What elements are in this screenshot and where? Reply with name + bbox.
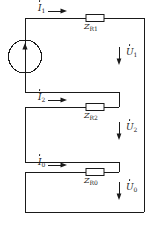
impedance-label-zr0: ZR0 — [84, 177, 98, 185]
resistor-box-zr2 — [86, 104, 104, 111]
voltage-arrow-head-1 — [117, 59, 122, 66]
current-label-i1: I1 — [38, 4, 45, 13]
current-arrow-head-2 — [61, 98, 68, 103]
resistor-box-zr0 — [86, 169, 104, 176]
resistor-box-zr1 — [86, 15, 104, 22]
voltage-label-u1: U1 — [126, 48, 137, 57]
impedance-label-zr1: ZR1 — [84, 23, 98, 31]
current-label-i0: I0 — [38, 158, 45, 167]
source-arrow-icon — [22, 43, 27, 50]
voltage-label-u0: U0 — [126, 183, 137, 192]
circuit-diagram-canvas: I1 I2 I0 ZR1 ZR2 ZR0 U1 U2 U0 — [0, 0, 158, 226]
voltage-arrow-head-0 — [117, 194, 122, 201]
voltage-arrow-head-2 — [117, 134, 122, 141]
current-arrow-head-0 — [61, 163, 68, 168]
impedance-label-zr2: ZR2 — [84, 112, 98, 120]
voltage-label-u2: U2 — [126, 123, 137, 132]
current-label-i2: I2 — [38, 93, 45, 102]
current-arrow-head-1 — [61, 9, 68, 14]
